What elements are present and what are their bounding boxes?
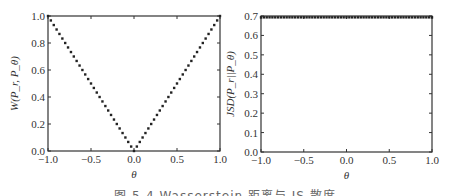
- data-point: [399, 16, 401, 18]
- data-point: [303, 16, 305, 18]
- plot-frame: [261, 16, 432, 152]
- data-point: [345, 16, 347, 18]
- x-tick-label: −0.5: [294, 154, 314, 166]
- data-point: [357, 16, 359, 18]
- data-point: [391, 16, 393, 18]
- data-point: [431, 16, 433, 18]
- data-point: [419, 16, 421, 18]
- jsd-plot: −1.0−0.50.00.51.00.00.10.20.30.40.50.60.…: [0, 0, 450, 196]
- data-point: [417, 16, 419, 18]
- y-tick-label: 0.2: [244, 107, 258, 119]
- data-point: [263, 16, 265, 18]
- data-point: [266, 16, 268, 18]
- data-point: [323, 16, 325, 18]
- y-tick-label: 0.0: [244, 146, 258, 158]
- data-point: [377, 16, 379, 18]
- figure-caption: 图 5-4 Wasserstein 距离与 JS 散度: [0, 186, 450, 196]
- data-point: [422, 16, 424, 18]
- data-point: [380, 16, 382, 18]
- data-point: [374, 16, 376, 18]
- data-point: [365, 16, 367, 18]
- data-point: [300, 16, 302, 18]
- data-point: [348, 16, 350, 18]
- data-point: [305, 16, 307, 18]
- data-point: [311, 16, 313, 18]
- data-point: [271, 16, 273, 18]
- chart-jsd: −1.0−0.50.00.51.00.00.10.20.30.40.50.60.…: [0, 0, 450, 196]
- y-tick-label: 0.3: [244, 88, 258, 100]
- data-point: [397, 16, 399, 18]
- y-axis-label: JSD(P_r||P_θ): [224, 51, 237, 117]
- data-point: [320, 16, 322, 18]
- data-point: [425, 16, 427, 18]
- data-point: [277, 16, 279, 18]
- data-point: [328, 16, 330, 18]
- data-point: [402, 16, 404, 18]
- data-point: [342, 16, 344, 18]
- y-tick-label: 0.4: [244, 68, 258, 80]
- data-point: [325, 16, 327, 18]
- data-point: [285, 16, 287, 18]
- data-point: [260, 16, 262, 18]
- y-tick-label: 0.1: [244, 127, 258, 139]
- data-point: [405, 16, 407, 18]
- y-tick-label: 0.5: [244, 49, 258, 61]
- data-point: [294, 16, 296, 18]
- data-point: [337, 16, 339, 18]
- data-point: [414, 16, 416, 18]
- data-point: [291, 16, 293, 18]
- data-point: [280, 16, 282, 18]
- data-point: [385, 16, 387, 18]
- data-point: [274, 16, 276, 18]
- y-tick-label: 0.6: [244, 29, 258, 41]
- data-point: [268, 16, 270, 18]
- data-point: [371, 16, 373, 18]
- data-point: [351, 16, 353, 18]
- data-point: [297, 16, 299, 18]
- data-point: [308, 16, 310, 18]
- x-axis-label: θ: [344, 169, 350, 181]
- data-point: [382, 16, 384, 18]
- data-point: [362, 16, 364, 18]
- data-point: [314, 16, 316, 18]
- data-point: [340, 16, 342, 18]
- data-point: [411, 16, 413, 18]
- x-tick-label: 0.5: [382, 154, 396, 166]
- x-tick-label: 0.0: [340, 154, 354, 166]
- data-point: [288, 16, 290, 18]
- data-point: [331, 16, 333, 18]
- data-point: [317, 16, 319, 18]
- data-point: [368, 16, 370, 18]
- data-point: [428, 16, 430, 18]
- data-point: [354, 16, 356, 18]
- data-point: [334, 16, 336, 18]
- data-point: [283, 16, 285, 18]
- data-point: [360, 16, 362, 18]
- y-tick-label: 0.7: [244, 10, 258, 22]
- x-tick-label: 1.0: [425, 154, 439, 166]
- data-point: [394, 16, 396, 18]
- data-point: [388, 16, 390, 18]
- data-point: [408, 16, 410, 18]
